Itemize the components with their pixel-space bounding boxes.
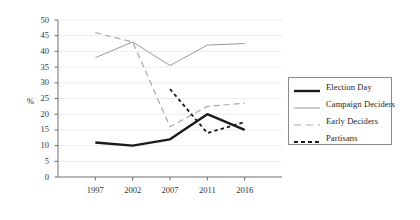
legend-item-early-deciders[interactable]: Early Deciders xyxy=(289,112,391,129)
line-chart: % 05101520253035404550 19972002200720112… xyxy=(0,0,420,220)
y-axis-tick-label: 40 xyxy=(29,46,49,56)
legend-label-election-day: Election Day xyxy=(326,82,372,92)
y-axis-tick-label: 5 xyxy=(29,156,49,166)
legend-swatch-partisans xyxy=(294,133,320,143)
x-axis-tick-label: 1997 xyxy=(75,185,115,195)
x-axis-ticks xyxy=(95,177,244,181)
y-axis-tick-label: 0 xyxy=(29,172,49,182)
y-axis-tick-label: 30 xyxy=(29,77,49,87)
legend-item-campaign-deciders[interactable]: Campaign Deciders xyxy=(289,95,391,112)
y-axis-tick-label: 15 xyxy=(29,124,49,134)
chart-legend: Election Day Campaign Deciders Early Dec… xyxy=(288,77,392,145)
y-axis-tick-label: 35 xyxy=(29,62,49,72)
legend-swatch-election-day xyxy=(294,82,320,92)
x-axis-tick-label: 2016 xyxy=(225,185,265,195)
legend-swatch-campaign-deciders xyxy=(294,99,320,109)
y-axis-tick-label: 20 xyxy=(29,109,49,119)
y-axis-tick-label: 50 xyxy=(29,15,49,25)
legend-item-partisans[interactable]: Partisans xyxy=(289,129,391,146)
series-line xyxy=(95,33,244,127)
x-axis-tick-label: 2007 xyxy=(150,185,190,195)
legend-swatch-early-deciders xyxy=(294,116,320,126)
x-axis-tick-label: 2002 xyxy=(113,185,153,195)
y-axis-tick-label: 10 xyxy=(29,140,49,150)
y-axis-tick-label: 45 xyxy=(29,30,49,40)
series-line xyxy=(95,42,244,66)
x-axis-tick-label: 2011 xyxy=(187,185,227,195)
legend-item-election-day[interactable]: Election Day xyxy=(289,78,391,95)
data-series xyxy=(95,33,244,146)
y-axis-ticks xyxy=(55,20,59,177)
legend-label-partisans: Partisans xyxy=(326,133,358,143)
legend-label-early-deciders: Early Deciders xyxy=(326,116,378,126)
y-axis-tick-label: 25 xyxy=(29,93,49,103)
legend-label-campaign-deciders: Campaign Deciders xyxy=(326,99,395,109)
